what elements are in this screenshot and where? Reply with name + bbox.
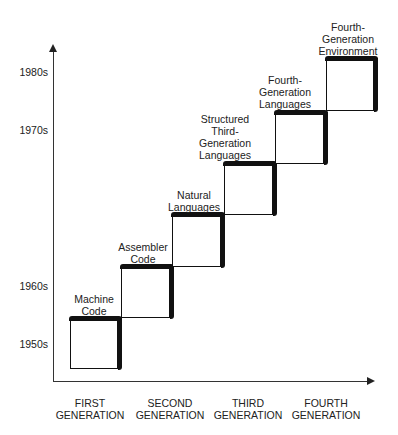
x-label-third: THIRDGENERATION — [208, 397, 288, 421]
step-label-structured-third-generation: StructuredThird-GenerationLanguages — [180, 113, 270, 161]
y-label-1980s: 1980s — [8, 66, 48, 78]
label-line: Languages — [180, 149, 270, 161]
y-label-1960s: 1960s — [8, 280, 48, 292]
label-line: Third- — [180, 125, 270, 137]
x-label-line: GENERATION — [130, 409, 210, 421]
x-label-second: SECONDGENERATION — [130, 397, 210, 421]
y-axis-arrow-icon — [49, 44, 57, 52]
x-label-line: THIRD — [208, 397, 288, 409]
step-box-fourth-generation-languages — [275, 114, 324, 164]
step-label-fourth-generation-environment: Fourth-GenerationEnvironment — [303, 21, 393, 57]
x-label-line: GENERATION — [208, 409, 288, 421]
x-axis — [53, 381, 368, 382]
step-box-machine-code — [70, 320, 118, 369]
x-label-line: SECOND — [130, 397, 210, 409]
x-label-line: GENERATION — [50, 409, 130, 421]
step-box-assembler-code — [121, 268, 170, 318]
label-line: Generation — [180, 137, 270, 149]
x-label-line: FOURTH — [286, 397, 366, 409]
x-axis-arrow-icon — [367, 377, 375, 385]
step-box-fourth-generation-environment — [326, 60, 374, 111]
x-label-fourth: FOURTHGENERATION — [286, 397, 366, 421]
label-line: Generation — [303, 33, 393, 45]
label-line: Fourth- — [303, 21, 393, 33]
label-line: Generation — [240, 86, 330, 98]
label-line: Structured — [180, 113, 270, 125]
x-label-line: FIRST — [50, 397, 130, 409]
label-line: Environment — [303, 45, 393, 57]
y-axis — [53, 50, 54, 382]
step-box-structured-third-generation — [224, 165, 273, 215]
y-label-1970s: 1970s — [8, 124, 48, 136]
x-label-line: GENERATION — [286, 409, 366, 421]
label-line: Fourth- — [240, 74, 330, 86]
step-box-natural-languages — [172, 216, 221, 267]
y-label-1950s: 1950s — [8, 338, 48, 350]
step-label-fourth-generation-languages: Fourth-GenerationLanguages — [240, 74, 330, 110]
label-line: Languages — [240, 98, 330, 110]
x-label-first: FIRSTGENERATION — [50, 397, 130, 421]
